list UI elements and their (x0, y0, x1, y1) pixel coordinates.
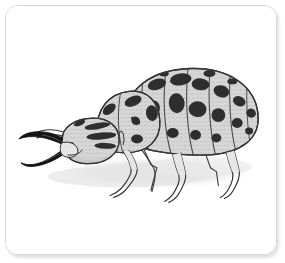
illustration-canvas (6, 6, 276, 254)
illustration-card: Spotted insect larva with large mandible… (5, 5, 277, 255)
card-inner: Spotted insect larva with large mandible… (6, 6, 276, 254)
lower-mandible (21, 148, 66, 167)
insect-illustration: Spotted insect larva with large mandible… (6, 6, 276, 254)
upper-mandible (19, 132, 63, 144)
screenshot-root: Spotted insect larva with large mandible… (0, 0, 285, 263)
